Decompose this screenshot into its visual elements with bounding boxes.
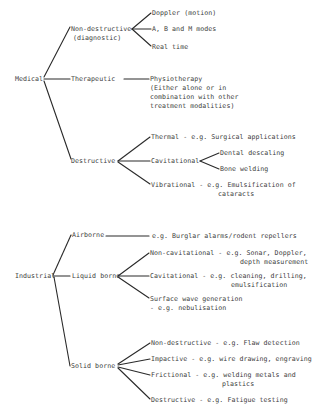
node-non-cavitational-continuation: depth measurement	[240, 258, 308, 267]
node-vibrational-continuation: cataracts	[218, 190, 254, 199]
node-non-cavitational: Non-cavitational - e.g. Sonar, Doppler,	[150, 249, 307, 258]
connector-surface	[118, 277, 149, 298]
node-frictional-continuation: plastics	[222, 380, 254, 389]
node-vibrational: Vibrational - e.g. Emulsification of	[151, 181, 296, 190]
node-ind-cavitational-continuation: emulsification	[231, 281, 287, 290]
node-impactive: Impactive - e.g. wire drawing, engraving	[151, 355, 312, 364]
connector-medical-destructive	[44, 81, 71, 159]
connector-dental	[200, 153, 219, 161]
node-ind-cavitational: Cavitational - e.g. cleaning, drilling,	[150, 272, 307, 281]
connector-industrial-solid	[54, 277, 70, 366]
node-surface-wave-continuation: - e.g. nebulisation	[150, 304, 226, 313]
node-med-nondestructive-sublabel: (diagnostic)	[73, 34, 121, 43]
node-med-nondestructive: Non-destructive	[71, 25, 131, 34]
connector-solid-nondestructive	[118, 343, 150, 364]
node-solid-borne: Solid borne	[71, 362, 115, 371]
connector-noncav	[118, 253, 149, 276]
node-thermal: Thermal - e.g. Surgical applications	[151, 133, 296, 142]
node-frictional: Frictional - e.g. welding metals and	[151, 371, 296, 380]
node-airborne: Airborne	[72, 231, 104, 240]
connector-frictional	[118, 367, 150, 375]
connector-realtime	[132, 29, 151, 46]
connector-solid-destructive	[118, 368, 150, 399]
node-real-time: Real time	[152, 43, 188, 52]
connector-doppler	[132, 13, 151, 29]
node-industrial: Industrial	[15, 272, 55, 281]
connector-medical-nondestructive	[44, 27, 70, 77]
node-burglar-alarms: e.g. Burglar alarms/rodent repellers	[152, 232, 297, 241]
node-med-cavitational: Cavitational	[151, 157, 199, 166]
node-physiotherapy-line3: combination with other	[150, 93, 238, 102]
connector-impactive	[118, 359, 150, 365]
ultrasound-applications-tree: Medical Non-destructive (diagnostic) Dop…	[0, 0, 331, 414]
connector-industrial-airborne	[53, 235, 71, 275]
node-med-destructive: Destructive	[71, 157, 115, 166]
connector-thermal	[118, 137, 150, 161]
connector-bone	[200, 161, 219, 169]
node-physiotherapy: Physiotherapy	[150, 75, 202, 84]
node-abm-modes: A, B and M modes	[152, 25, 216, 34]
node-therapeutic: Therapeutic	[71, 75, 115, 84]
connector-vibrational	[118, 162, 150, 184]
node-medical: Medical	[15, 75, 43, 84]
connector-lines	[0, 0, 331, 414]
node-liquid-borne: Liquid borne	[72, 272, 120, 281]
node-bone-welding: Bone welding	[220, 165, 268, 174]
node-surface-wave: Surface wave generation	[150, 295, 242, 304]
node-doppler: Doppler (motion)	[152, 9, 216, 18]
node-dental-descaling: Dental descaling	[220, 149, 284, 158]
node-solid-destructive: Destructive - e.g. Fatigue testing	[151, 396, 288, 405]
node-physiotherapy-line2: (Either alone or in	[150, 84, 226, 93]
node-physiotherapy-line4: treatment modalities)	[150, 102, 234, 111]
node-solid-nondestructive: Non-destructive - e.g. Flaw detection	[151, 339, 300, 348]
